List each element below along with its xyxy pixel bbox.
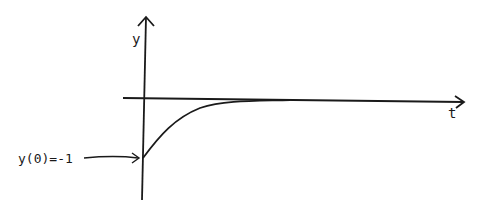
t-axis-label: t [448, 105, 456, 121]
solution-curve [143, 100, 290, 158]
graph-canvas: y t y(0)=-1 [0, 0, 485, 214]
initial-condition-label: y(0)=-1 [18, 151, 73, 166]
t-axis [123, 96, 464, 108]
initial-condition-pointer [84, 153, 139, 163]
y-axis-label: y [132, 31, 140, 47]
